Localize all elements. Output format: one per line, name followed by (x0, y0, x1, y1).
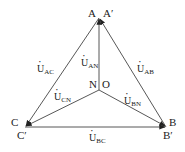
label-ubn: UBN (124, 96, 141, 108)
label-c-prime: C′ (17, 130, 27, 141)
vector-uab (100, 19, 166, 127)
label-b-prime: B′ (163, 130, 173, 141)
label-a-prime: A′ (103, 8, 113, 19)
label-uan: UAN (81, 58, 98, 70)
label-a: A (88, 8, 96, 19)
phasor-diagram: A A′ B B′ C C′ N O UAC UAN UAB UCN UBN U… (0, 0, 185, 152)
label-n: N (89, 79, 97, 90)
label-c: C (11, 117, 18, 128)
label-ucn: UCN (54, 92, 71, 104)
label-o: O (102, 79, 110, 90)
label-uab: UAB (137, 64, 154, 76)
label-ubc: UBC (89, 133, 106, 145)
label-b: B (169, 117, 176, 128)
label-uac: UAC (37, 64, 54, 76)
